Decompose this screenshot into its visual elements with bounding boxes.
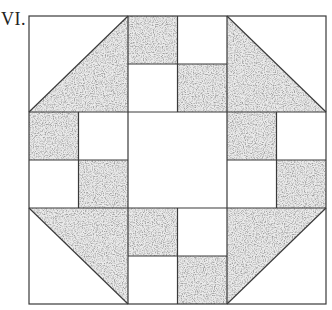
square-r3c1 — [79, 160, 129, 208]
seam-lines — [29, 16, 326, 304]
square-r0c2 — [128, 16, 178, 64]
quilt-block-diagram — [0, 0, 332, 310]
square-r2c0 — [29, 112, 79, 160]
square-r3c5 — [277, 160, 327, 208]
square-r5c3 — [178, 256, 228, 304]
square-r4c2 — [128, 208, 178, 256]
square-r2c4 — [227, 112, 277, 160]
square-r1c3 — [178, 64, 228, 112]
